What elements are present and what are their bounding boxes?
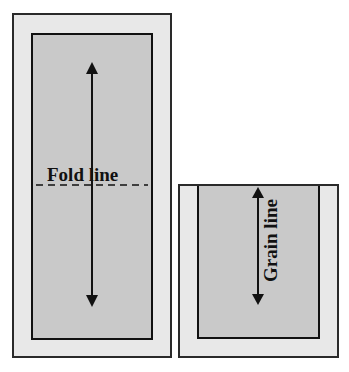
grain-line-label: Grain line bbox=[261, 195, 280, 287]
arrows-layer bbox=[0, 0, 349, 372]
up-arrow-icon bbox=[86, 62, 98, 74]
grain-down-arrow-icon bbox=[252, 294, 264, 305]
fold-line-label: Fold line bbox=[47, 165, 118, 184]
down-arrow-icon bbox=[86, 295, 98, 307]
